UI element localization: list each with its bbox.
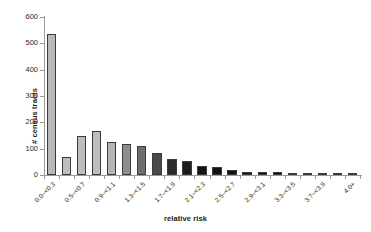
x-tick-mark xyxy=(104,175,105,179)
x-tick-mark xyxy=(255,175,256,179)
bar[interactable] xyxy=(122,144,131,175)
x-tick-mark xyxy=(270,175,271,179)
bar[interactable] xyxy=(137,146,146,175)
bar[interactable] xyxy=(273,172,282,175)
x-axis-title: relative risk xyxy=(0,214,371,223)
x-tick-mark xyxy=(74,175,75,179)
bar-slot xyxy=(300,17,315,175)
bar[interactable] xyxy=(77,136,86,176)
y-tick-mark xyxy=(40,43,44,44)
bar[interactable] xyxy=(242,172,251,175)
bar[interactable] xyxy=(182,161,191,175)
bar-slot xyxy=(179,17,194,175)
bar-slot xyxy=(164,17,179,175)
y-tick-label: 400 xyxy=(25,66,38,74)
y-tick-mark xyxy=(40,149,44,150)
bar[interactable] xyxy=(197,166,206,175)
x-tick-mark xyxy=(89,175,90,179)
bar-slot xyxy=(210,17,225,175)
x-tick-mark xyxy=(164,175,165,179)
x-tick-mark xyxy=(210,175,211,179)
x-tick-mark xyxy=(300,175,301,179)
bar-slot xyxy=(285,17,300,175)
x-tick-mark xyxy=(315,175,316,179)
y-tick-mark xyxy=(40,17,44,18)
bar-slot xyxy=(255,17,270,175)
x-tick-mark xyxy=(330,175,331,179)
y-tick-label: 100 xyxy=(25,145,38,153)
plot-area: 0100200300400500600 xyxy=(44,17,360,175)
bar[interactable] xyxy=(303,173,312,175)
y-tick-mark xyxy=(40,70,44,71)
bar[interactable] xyxy=(62,157,71,175)
x-tick-mark xyxy=(194,175,195,179)
bar-slot xyxy=(74,17,89,175)
bar[interactable] xyxy=(152,153,161,175)
y-tick-label: 500 xyxy=(25,40,38,48)
x-tick-mark xyxy=(119,175,120,179)
bar[interactable] xyxy=(227,170,236,175)
bar-slot xyxy=(119,17,134,175)
y-tick-label: 0 xyxy=(34,171,38,179)
x-tick-mark xyxy=(149,175,150,179)
x-tick-mark xyxy=(179,175,180,179)
bar[interactable] xyxy=(92,131,101,175)
bar-slot xyxy=(149,17,164,175)
bar[interactable] xyxy=(258,172,267,175)
x-tick-mark xyxy=(285,175,286,179)
bar-slot xyxy=(89,17,104,175)
bar-slot xyxy=(270,17,285,175)
bar-slot xyxy=(104,17,119,175)
bar-slot xyxy=(345,17,360,175)
x-tick-mark xyxy=(345,175,346,179)
y-tick-label: 200 xyxy=(25,119,38,127)
y-tick-mark xyxy=(40,122,44,123)
x-tick-mark xyxy=(59,175,60,179)
bar-slot xyxy=(315,17,330,175)
bar[interactable] xyxy=(318,173,327,175)
bar-slot xyxy=(44,17,59,175)
bar-slot xyxy=(59,17,74,175)
x-tick-mark xyxy=(360,175,361,179)
bar[interactable] xyxy=(333,173,342,175)
y-tick-mark xyxy=(40,96,44,97)
bar-slot xyxy=(330,17,345,175)
bar-slot xyxy=(225,17,240,175)
bar[interactable] xyxy=(348,173,357,175)
x-tick-mark xyxy=(240,175,241,179)
x-tick-mark xyxy=(134,175,135,179)
bar[interactable] xyxy=(212,167,221,175)
bar[interactable] xyxy=(167,159,176,175)
bar[interactable] xyxy=(47,34,56,175)
bar-slot xyxy=(134,17,149,175)
y-tick-label: 600 xyxy=(25,13,38,21)
bar-slot xyxy=(240,17,255,175)
bar[interactable] xyxy=(107,142,116,175)
x-tick-mark xyxy=(225,175,226,179)
y-tick-label: 300 xyxy=(25,92,38,100)
bar[interactable] xyxy=(288,173,297,175)
x-tick-mark xyxy=(44,175,45,179)
bar-series xyxy=(44,17,360,175)
bar-slot xyxy=(194,17,209,175)
bar-chart: # census tracts 0100200300400500600 0.0–… xyxy=(0,0,371,232)
